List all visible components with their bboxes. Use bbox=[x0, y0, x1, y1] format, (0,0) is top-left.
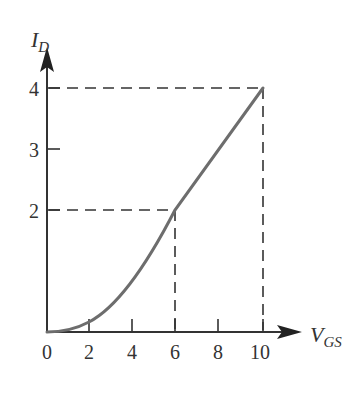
guide-lines bbox=[49, 88, 263, 330]
x-tick-4: 4 bbox=[127, 341, 137, 363]
y-tick-2: 2 bbox=[29, 200, 39, 222]
x-tick-6: 6 bbox=[170, 341, 180, 363]
x-axis-label: VGS bbox=[310, 322, 342, 350]
x-tick-10: 10 bbox=[250, 341, 270, 363]
ticks bbox=[47, 88, 263, 332]
id-vs-vgs-chart: 0 2 4 6 8 10 4 3 2 ID VGS bbox=[0, 0, 363, 396]
x-tick-2: 2 bbox=[84, 341, 94, 363]
x-tick-8: 8 bbox=[213, 341, 223, 363]
x-tick-0: 0 bbox=[42, 341, 52, 363]
y-axis-label: ID bbox=[30, 27, 49, 55]
y-tick-4: 4 bbox=[29, 78, 39, 100]
id-curve bbox=[47, 88, 263, 332]
axes bbox=[46, 60, 285, 333]
y-tick-3: 3 bbox=[29, 139, 39, 161]
